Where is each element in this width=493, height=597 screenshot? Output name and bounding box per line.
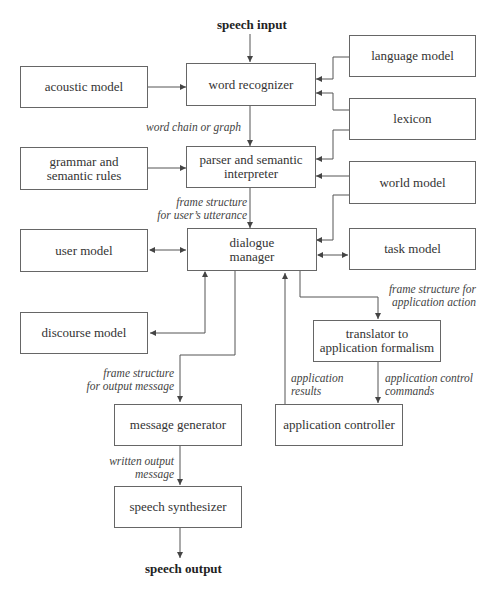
dialogue-manager-box: dialoguemanager <box>187 228 317 271</box>
frame-output-line2: for output message <box>80 380 174 393</box>
edge-label-frame-user: frame structure for user’s utterance <box>153 196 247 222</box>
app-results-line2: results <box>291 385 343 398</box>
frame-user-line2: for user’s utterance <box>153 209 247 222</box>
translator-box: translator toapplication formalism <box>313 320 441 362</box>
edge-label-application-results: application results <box>291 372 343 398</box>
translator-line1: translator to <box>320 327 434 341</box>
grammar-rules-label-line1: grammar and <box>47 155 122 169</box>
world-model-label: world model <box>379 176 445 190</box>
parser-label-line2: interpreter <box>199 167 302 181</box>
app-control-line2: commands <box>385 385 473 398</box>
application-controller-box: application controller <box>275 404 403 446</box>
parser-interpreter-box: parser and semanticinterpreter <box>186 146 316 188</box>
app-control-line1: application control <box>385 372 473 385</box>
lexicon-label: lexicon <box>393 112 431 126</box>
app-results-line1: application <box>291 372 343 385</box>
written-output-line2: message <box>94 468 174 481</box>
acoustic-model-label: acoustic model <box>45 80 123 94</box>
edge-label-application-control: application control commands <box>385 372 473 398</box>
edge-label-frame-output: frame structure for output message <box>80 367 174 393</box>
frame-output-line1: frame structure <box>80 367 174 380</box>
speech-output-label: speech output <box>145 561 222 577</box>
word-recognizer-label: word recognizer <box>209 78 294 92</box>
application-controller-label: application controller <box>283 418 395 432</box>
discourse-model-box: discourse model <box>20 312 148 354</box>
dialogue-manager-line1: dialogue <box>230 236 275 250</box>
language-model-box: language model <box>349 35 476 77</box>
edge-label-frame-application: frame structure for application action <box>370 283 476 309</box>
acoustic-model-box: acoustic model <box>20 66 148 108</box>
frame-user-line1: frame structure <box>153 196 247 209</box>
speech-synthesizer-box: speech synthesizer <box>114 486 242 528</box>
world-model-box: world model <box>349 161 476 204</box>
task-model-box: task model <box>349 228 476 270</box>
speech-input-label: speech input <box>217 17 287 33</box>
message-generator-box: message generator <box>114 404 242 446</box>
written-output-line1: written output <box>94 455 174 468</box>
parser-label-line1: parser and semantic <box>199 153 302 167</box>
edge-label-word-chain: word chain or graph <box>146 121 241 134</box>
language-model-label: language model <box>371 49 454 63</box>
frame-app-line1: frame structure for <box>370 283 476 296</box>
frame-app-line2: application action <box>370 296 476 309</box>
dialogue-manager-line2: manager <box>230 250 275 264</box>
user-model-box: user model <box>20 229 148 272</box>
user-model-label: user model <box>55 244 112 258</box>
word-recognizer-box: word recognizer <box>186 63 316 106</box>
grammar-rules-label-line2: semantic rules <box>47 169 122 183</box>
speech-synthesizer-label: speech synthesizer <box>129 500 226 514</box>
lexicon-box: lexicon <box>349 98 476 140</box>
grammar-rules-box: grammar andsemantic rules <box>20 147 148 190</box>
task-model-label: task model <box>384 242 441 256</box>
discourse-model-label: discourse model <box>42 326 127 340</box>
edge-label-written-output: written output message <box>94 455 174 481</box>
message-generator-label: message generator <box>130 418 226 432</box>
translator-line2: application formalism <box>320 341 434 355</box>
